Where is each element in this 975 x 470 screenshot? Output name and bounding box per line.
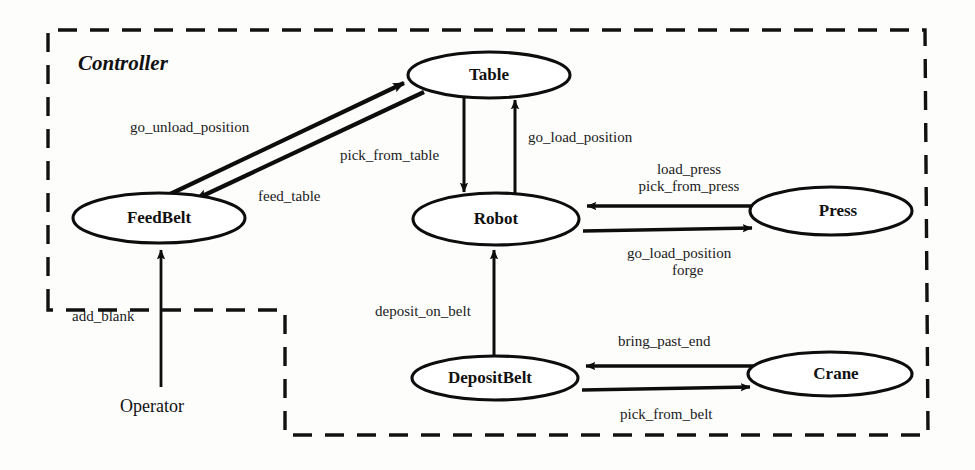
edge-label-add-blank: add_blank — [72, 308, 135, 324]
node-robot[interactable]: Robot — [413, 193, 579, 245]
node-feedbelt[interactable]: FeedBelt — [73, 193, 245, 243]
node-table-label: Table — [469, 65, 509, 84]
node-crane[interactable]: Crane — [748, 352, 912, 396]
edge-label-pick-from-table: pick_from_table — [340, 147, 439, 163]
actor-operator-label: Operator — [120, 396, 184, 416]
edge-label-go-load-position: go_load_position — [528, 129, 633, 145]
node-crane-label: Crane — [813, 364, 859, 383]
controller-interaction-diagram: Table FeedBelt Robot Press DepositBelt C… — [0, 0, 975, 470]
edge-robot-to-press — [583, 228, 752, 231]
boundary-label-controller: Controller — [78, 51, 169, 75]
edge-label-pick-from-belt: pick_from_belt — [620, 406, 713, 422]
node-depositbelt[interactable]: DepositBelt — [412, 356, 578, 400]
node-depositbelt-label: DepositBelt — [448, 368, 532, 387]
edge-label-go-unload-position: go_unload_position — [130, 119, 250, 135]
node-press-label: Press — [819, 201, 858, 220]
edge-pick-from-belt — [582, 387, 750, 390]
edge-label-forge: forge — [672, 262, 704, 278]
edge-go-unload-position — [166, 83, 404, 196]
edge-label-bring-past-end: bring_past_end — [618, 333, 711, 349]
edge-label-pick-from-press: pick_from_press — [639, 178, 740, 194]
edge-label-feed-table: feed_table — [258, 188, 321, 204]
edge-label-go-load-position-2: go_load_position — [627, 245, 732, 261]
node-feedbelt-label: FeedBelt — [127, 208, 192, 227]
edge-label-load-press: load_press — [657, 161, 721, 177]
node-table[interactable]: Table — [408, 52, 570, 98]
edge-label-deposit-on-belt: deposit_on_belt — [375, 303, 472, 319]
diagram-canvas: Table FeedBelt Robot Press DepositBelt C… — [0, 0, 975, 470]
edge-feed-table — [196, 92, 424, 199]
node-press[interactable]: Press — [750, 187, 912, 235]
node-robot-label: Robot — [474, 209, 519, 228]
